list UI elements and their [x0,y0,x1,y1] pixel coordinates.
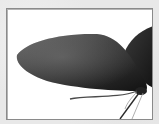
stem-diagonal [120,93,139,119]
image-frame: Dark gray leaf or wing shapes on a white… [6,8,153,120]
stem-curved [70,91,137,99]
leaf-sheen [17,34,147,92]
leaf-illustration [7,9,152,119]
stem-thin [132,93,143,119]
